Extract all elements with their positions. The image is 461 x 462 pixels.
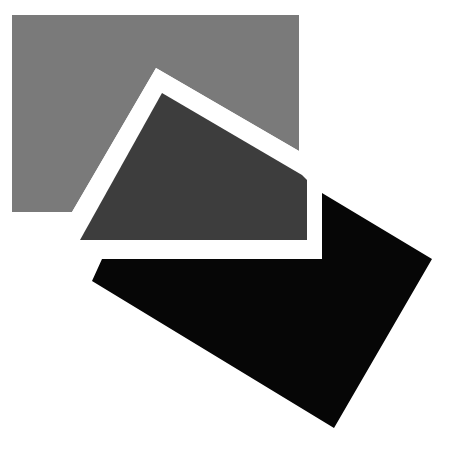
artwork-canvas xyxy=(0,0,461,462)
abstract-artwork xyxy=(0,0,461,462)
